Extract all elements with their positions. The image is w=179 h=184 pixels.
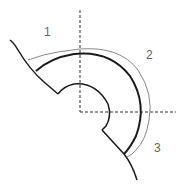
inner-arc — [58, 84, 110, 130]
lower-right-boundary-line — [102, 130, 137, 180]
curved-channel-diagram: 1 2 3 — [0, 0, 179, 184]
region-label-1: 1 — [44, 25, 51, 39]
outer-thick-arc — [36, 53, 141, 154]
outer-thin-arc — [28, 49, 150, 157]
region-label-3: 3 — [154, 141, 161, 155]
region-label-2: 2 — [146, 48, 153, 62]
upper-left-boundary-line — [10, 40, 58, 94]
